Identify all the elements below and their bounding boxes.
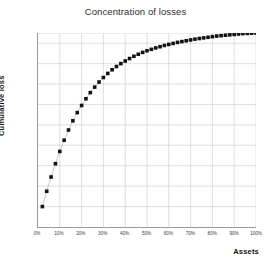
x-tick-label: 90% — [229, 231, 238, 236]
plot-area — [37, 33, 256, 228]
x-tick-label: 80% — [208, 231, 217, 236]
y-axis-title: Cumulative loss — [0, 75, 6, 136]
x-tick-label: 30% — [98, 231, 107, 236]
x-tick-label: 0% — [34, 231, 41, 236]
x-tick-label: 70% — [186, 231, 195, 236]
chart-title: Concentration of losses — [0, 6, 271, 17]
x-tick-label: 60% — [164, 231, 173, 236]
x-tick-label: 10% — [54, 231, 63, 236]
data-series-cumulative-loss — [38, 33, 256, 227]
x-tick-label: 100% — [250, 231, 262, 236]
x-tick-label: 20% — [76, 231, 85, 236]
x-tick-label: 50% — [142, 231, 151, 236]
chart-container: Concentration of losses 5%15%25%35%45%55… — [0, 0, 271, 273]
x-tick-label: 40% — [120, 231, 129, 236]
x-axis-title: Assets — [0, 247, 271, 256]
